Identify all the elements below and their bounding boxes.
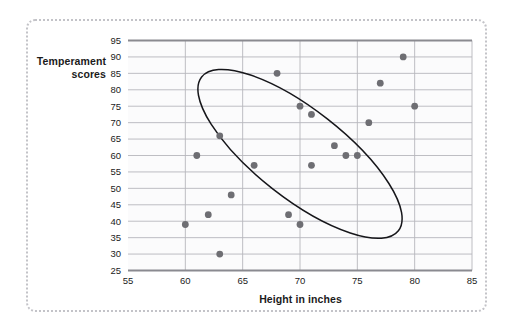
scatter-point: [251, 162, 258, 169]
y-tick-label: 35: [110, 232, 121, 243]
y-tick-label: 45: [110, 199, 121, 210]
y-tick-label: 30: [110, 248, 121, 259]
x-tick-label: 80: [409, 275, 420, 286]
y-tick-label: 95: [110, 35, 121, 46]
scatter-point: [297, 103, 304, 110]
y-tick-label: 80: [110, 84, 121, 95]
x-tick-label: 60: [180, 275, 191, 286]
scatter-point: [297, 221, 304, 228]
x-tick-label: 55: [123, 275, 134, 286]
y-tick-label: 75: [110, 101, 121, 112]
scatter-plot-figure: Temperament scores Height in inches 2530…: [0, 0, 515, 328]
scatter-point: [216, 251, 223, 258]
y-tick-label: 90: [110, 51, 121, 62]
scatter-point: [400, 54, 407, 61]
chart-canvas: 253035404550556065707580859095 556065707…: [0, 0, 515, 328]
scatter-point: [308, 162, 315, 169]
y-tick-label: 50: [110, 183, 121, 194]
y-tick-label: 25: [110, 265, 121, 276]
y-tick-label: 55: [110, 166, 121, 177]
y-tick-label: 60: [110, 150, 121, 161]
scatter-point: [377, 80, 384, 87]
scatter-point: [285, 211, 292, 218]
scatter-point: [205, 211, 212, 218]
x-tick-label: 85: [467, 275, 478, 286]
y-axis-tick-labels: 253035404550556065707580859095: [110, 35, 121, 276]
scatter-point: [182, 221, 189, 228]
y-tick-label: 70: [110, 117, 121, 128]
scatter-point: [274, 70, 281, 77]
x-tick-label: 75: [352, 275, 363, 286]
scatter-point: [411, 103, 418, 110]
scatter-point: [365, 119, 372, 126]
x-axis-tick-labels: 55606570758085: [123, 275, 478, 286]
y-tick-label: 85: [110, 68, 121, 79]
x-tick-label: 70: [295, 275, 306, 286]
x-tick-label: 65: [237, 275, 248, 286]
scatter-point: [342, 152, 349, 159]
scatter-point: [308, 111, 315, 118]
scatter-point: [354, 152, 361, 159]
scatter-point: [216, 132, 223, 139]
scatter-point: [193, 152, 200, 159]
y-tick-label: 40: [110, 216, 121, 227]
scatter-point: [331, 142, 338, 149]
y-tick-label: 65: [110, 133, 121, 144]
scatter-point: [228, 192, 235, 199]
